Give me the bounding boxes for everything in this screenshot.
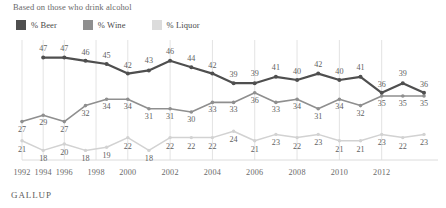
svg-text:35: 35 <box>420 99 428 108</box>
svg-text:18: 18 <box>145 154 153 163</box>
svg-text:31: 31 <box>166 112 174 121</box>
plot-area: 2118201819221822222224212322232121232223… <box>0 40 446 168</box>
legend-label-liquor: % Liquor <box>167 20 200 30</box>
chart-subtitle: Based on those who drink alcohol <box>13 2 132 12</box>
svg-text:35: 35 <box>378 99 386 108</box>
legend-swatch-beer-icon <box>16 20 26 30</box>
legend-item-beer: % Beer <box>16 20 57 30</box>
svg-text:18: 18 <box>39 154 47 163</box>
svg-text:42: 42 <box>314 60 322 69</box>
svg-text:29: 29 <box>39 118 47 127</box>
svg-text:46: 46 <box>81 48 89 57</box>
line-chart-svg: 2118201819221822222224212322232121232223… <box>0 40 446 168</box>
svg-text:23: 23 <box>420 138 428 147</box>
svg-text:39: 39 <box>399 69 407 78</box>
svg-text:35: 35 <box>399 99 407 108</box>
x-tick-1994: 1994 <box>35 168 52 177</box>
series-wine <box>20 91 426 123</box>
svg-text:36: 36 <box>420 80 428 89</box>
gallup-footer-logo: GALLUP <box>11 190 52 200</box>
svg-text:47: 47 <box>60 44 68 53</box>
x-tick-1998: 1998 <box>88 168 105 177</box>
svg-text:32: 32 <box>81 109 89 118</box>
svg-text:44: 44 <box>187 54 195 63</box>
svg-text:19: 19 <box>103 151 111 160</box>
svg-text:31: 31 <box>145 112 153 121</box>
svg-text:22: 22 <box>166 142 174 151</box>
svg-text:21: 21 <box>356 145 364 154</box>
legend-item-wine: % Wine <box>83 20 126 30</box>
legend-label-wine: % Wine <box>98 20 126 30</box>
x-tick-2012: 2012 <box>373 168 390 177</box>
svg-text:33: 33 <box>208 105 216 114</box>
x-tick-2002: 2002 <box>162 168 179 177</box>
svg-text:36: 36 <box>251 96 259 105</box>
svg-text:22: 22 <box>399 142 407 151</box>
svg-text:20: 20 <box>60 148 68 157</box>
svg-text:27: 27 <box>18 125 26 134</box>
x-tick-1996: 1996 <box>56 168 73 177</box>
x-axis-labels: 1992199419961998200020022004200620082010… <box>0 168 446 184</box>
svg-text:22: 22 <box>293 142 301 151</box>
svg-text:39: 39 <box>230 70 238 79</box>
svg-text:43: 43 <box>145 56 153 65</box>
svg-text:23: 23 <box>272 138 280 147</box>
svg-text:42: 42 <box>124 61 132 70</box>
svg-text:21: 21 <box>335 145 343 154</box>
svg-text:39: 39 <box>251 69 259 78</box>
x-tick-1992: 1992 <box>13 168 30 177</box>
svg-text:41: 41 <box>356 63 364 72</box>
svg-text:22: 22 <box>208 142 216 151</box>
svg-text:21: 21 <box>251 145 259 154</box>
series-liquor <box>20 130 425 153</box>
svg-text:40: 40 <box>293 67 301 76</box>
svg-text:24: 24 <box>230 135 238 144</box>
legend-swatch-wine-icon <box>83 20 93 30</box>
legend-swatch-liquor-icon <box>152 20 162 30</box>
svg-text:27: 27 <box>60 125 68 134</box>
svg-text:23: 23 <box>314 138 322 147</box>
svg-text:33: 33 <box>230 105 238 114</box>
svg-text:47: 47 <box>39 44 47 53</box>
data-labels-wine: 2729273234343131303333363334313432353535 <box>18 96 428 134</box>
svg-text:45: 45 <box>103 51 111 60</box>
svg-text:34: 34 <box>335 102 343 111</box>
svg-text:23: 23 <box>378 138 386 147</box>
svg-text:33: 33 <box>272 105 280 114</box>
svg-text:30: 30 <box>187 115 195 124</box>
svg-text:41: 41 <box>272 63 280 72</box>
svg-text:36: 36 <box>378 80 386 89</box>
svg-text:40: 40 <box>335 67 343 76</box>
x-tick-2006: 2006 <box>246 168 263 177</box>
x-tick-2000: 2000 <box>119 168 136 177</box>
gridlines <box>22 40 382 160</box>
x-tick-2010: 2010 <box>331 168 348 177</box>
svg-text:34: 34 <box>103 102 111 111</box>
svg-text:18: 18 <box>81 154 89 163</box>
legend-item-liquor: % Liquor <box>152 20 200 30</box>
svg-text:21: 21 <box>18 145 26 154</box>
chart-figure: Based on those who drink alcohol % Beer … <box>0 0 446 208</box>
svg-text:46: 46 <box>166 47 174 56</box>
svg-text:32: 32 <box>356 109 364 118</box>
svg-text:42: 42 <box>208 61 216 70</box>
svg-text:34: 34 <box>124 102 132 111</box>
svg-text:31: 31 <box>314 112 322 121</box>
svg-text:34: 34 <box>293 102 301 111</box>
legend-label-beer: % Beer <box>31 20 57 30</box>
chart-legend: % Beer % Wine % Liquor <box>16 20 226 30</box>
x-tick-2008: 2008 <box>289 168 306 177</box>
x-tick-2004: 2004 <box>204 168 221 177</box>
svg-text:22: 22 <box>124 142 132 151</box>
svg-text:22: 22 <box>187 142 195 151</box>
